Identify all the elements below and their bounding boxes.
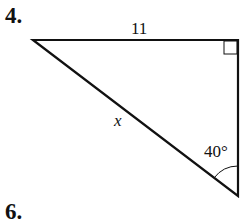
right-angle-marker	[224, 41, 237, 54]
triangle	[33, 40, 238, 196]
side-label-top: 11	[131, 20, 147, 37]
angle-label: 40°	[204, 143, 228, 160]
hypotenuse-label: x	[114, 112, 122, 129]
angle-arc	[214, 166, 238, 178]
problem-number-6: 6.	[5, 200, 22, 222]
